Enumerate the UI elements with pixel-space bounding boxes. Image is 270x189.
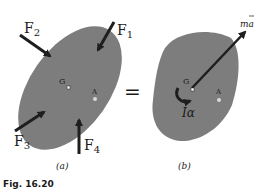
label-f2: F2 bbox=[24, 20, 40, 38]
sublabel-b: (b) bbox=[178, 161, 191, 171]
sublabel-a: (a) bbox=[56, 161, 69, 171]
label-a-b: A bbox=[215, 88, 222, 96]
label-f4: F4 bbox=[84, 137, 100, 155]
label-a-a: A bbox=[91, 88, 98, 96]
force-arrow-f2 bbox=[20, 35, 50, 56]
point-a-a bbox=[93, 97, 97, 101]
figure-canvas: F1 F2 F3 F4 G A (a) = ma Iα G A (b) Fig.… bbox=[0, 0, 270, 189]
label-g-b: G bbox=[183, 77, 189, 86]
label-f1: F1 bbox=[117, 22, 133, 40]
equals-sign: = bbox=[124, 80, 141, 104]
label-i-alpha: Iα bbox=[181, 106, 195, 120]
panel-b: ma Iα G A (b) bbox=[152, 16, 254, 171]
label-ma: ma bbox=[240, 19, 254, 29]
rigid-body-b bbox=[152, 32, 238, 141]
point-a-b bbox=[217, 98, 221, 102]
label-g-a: G bbox=[59, 77, 65, 86]
panel-a: F1 F2 F3 F4 G A (a) bbox=[0, 8, 143, 171]
center-of-mass-a bbox=[67, 86, 70, 89]
center-of-mass-b bbox=[191, 88, 194, 91]
figure-caption: Fig. 16.20 bbox=[3, 179, 54, 189]
